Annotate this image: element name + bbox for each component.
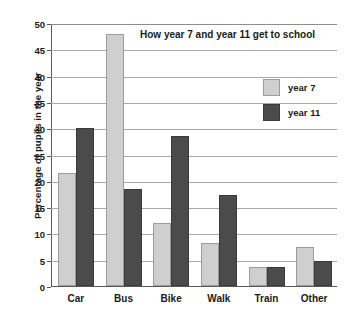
y-axis-tick-label: 50	[34, 19, 45, 30]
legend-item: year 11	[263, 101, 320, 123]
bar-group	[58, 24, 94, 286]
y-axis-tick-mark	[47, 182, 51, 183]
x-axis-line	[51, 286, 337, 287]
x-axis-label: Bus	[114, 293, 133, 304]
y-axis-tick-mark	[47, 156, 51, 157]
bar	[314, 261, 332, 286]
x-axis-label: Car	[67, 293, 84, 304]
bar	[201, 243, 219, 286]
y-axis-tick-label: 45	[34, 45, 45, 56]
legend-swatch	[263, 104, 280, 121]
x-axis-label: Walk	[207, 293, 230, 304]
x-axis-label: Other	[301, 293, 328, 304]
bars-layer	[52, 24, 337, 286]
y-axis-tick-label: 20	[34, 176, 45, 187]
bar	[171, 136, 189, 286]
bar-group	[201, 24, 237, 286]
bar	[124, 189, 142, 286]
bar-group	[153, 24, 189, 286]
y-axis-tick-label: 15	[34, 203, 45, 214]
bar	[58, 173, 76, 286]
y-axis-tick-label: 35	[34, 97, 45, 108]
bar	[219, 195, 237, 286]
bar	[153, 223, 171, 286]
bar-group	[249, 24, 285, 286]
y-axis-tick-mark	[47, 129, 51, 130]
y-axis-tick-mark	[47, 208, 51, 209]
chart-title: How year 7 and year 11 get to school	[140, 29, 315, 40]
bar-group	[296, 24, 332, 286]
legend-label: year 7	[288, 82, 315, 93]
bar	[267, 267, 285, 286]
legend-item: year 7	[263, 76, 320, 98]
y-axis-tick-mark	[47, 103, 51, 104]
y-axis-tick-mark	[47, 234, 51, 235]
y-axis-tick-label: 30	[34, 124, 45, 135]
x-axis-label: Bike	[161, 293, 182, 304]
legend-label: year 11	[288, 107, 320, 118]
legend-swatch	[263, 79, 280, 96]
y-axis-tick-mark	[47, 24, 51, 25]
y-axis-tick-label: 10	[34, 229, 45, 240]
y-axis-tick-label: 40	[34, 71, 45, 82]
y-axis-tick-mark	[47, 261, 51, 262]
y-axis-tick-mark	[47, 50, 51, 51]
plot-area: 05101520253035404550	[51, 24, 337, 287]
y-axis-tick-mark	[47, 287, 51, 288]
y-axis-tick-label: 25	[34, 150, 45, 161]
y-axis-tick-label: 0	[40, 282, 45, 293]
y-axis-tick-mark	[47, 77, 51, 78]
bar	[76, 128, 94, 286]
y-axis-tick-label: 5	[40, 255, 45, 266]
legend: year 7year 11	[263, 76, 320, 126]
bar	[296, 247, 314, 286]
bar	[249, 267, 267, 286]
bar-group	[106, 24, 142, 286]
bar-chart: Percentage of pupils in the year 0510152…	[0, 0, 350, 319]
x-axis-label: Train	[255, 293, 279, 304]
bar	[106, 34, 124, 286]
